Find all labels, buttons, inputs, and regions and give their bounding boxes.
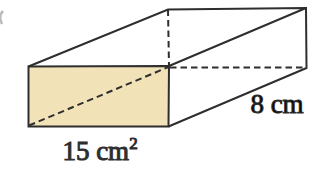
figure-canvas: 15 cm2 8 cm [0,0,323,180]
depth-edge-label: 8 cm [250,89,303,119]
hidden-back-left-edge [168,10,169,67]
cuboid-edges-group: 15 cm2 8 cm [29,8,307,166]
area-label-base: 15 cm [62,136,129,166]
area-label: 15 cm2 [62,134,137,166]
cuboid-diagram: 15 cm2 8 cm [0,0,323,180]
area-label-exponent: 2 [129,134,138,153]
cropped-edge-artifact [0,11,3,24]
